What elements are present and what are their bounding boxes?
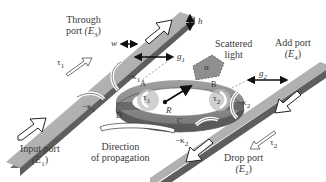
kappa1-bottom-symbol: −κ1 — [82, 101, 95, 114]
gap-g2-symbol: g2 — [259, 68, 267, 81]
kappa2-top-symbol: −κ2 — [237, 97, 250, 110]
direction-of-propagation-label: Direction of propagation — [91, 141, 150, 163]
point-b-label: B — [211, 80, 216, 89]
tau1-ring-symbol: τ1 — [143, 92, 150, 105]
through-port-label: Through port (E3) — [66, 14, 101, 41]
kappa2-bottom-symbol: −κ2 — [175, 135, 188, 148]
tau2-bottom-symbol: τ2 — [270, 137, 277, 150]
kappa1-top-symbol: −κ1 — [127, 71, 140, 84]
radius-symbol: R — [166, 105, 172, 115]
drop-port-label: Drop port (E2) — [224, 152, 263, 179]
input-port-label: Input port (E1) — [20, 143, 60, 170]
alpha-symbol: α — [204, 62, 209, 72]
point-a-label: A — [140, 79, 146, 88]
scattered-light-label: Scattered light — [215, 38, 252, 60]
tau2-ring-symbol: τ2 — [213, 93, 220, 106]
tau1-top-symbol: τ1 — [57, 57, 64, 70]
point-d-label: D — [116, 111, 122, 120]
width-symbol: w — [111, 38, 117, 48]
tau1-direction-arrow — [66, 58, 92, 76]
add-port-label: Add port (E4) — [275, 37, 311, 64]
height-symbol: h — [198, 16, 203, 26]
point-c-label: C — [177, 117, 182, 126]
gap-g1-symbol: g1 — [177, 51, 185, 64]
